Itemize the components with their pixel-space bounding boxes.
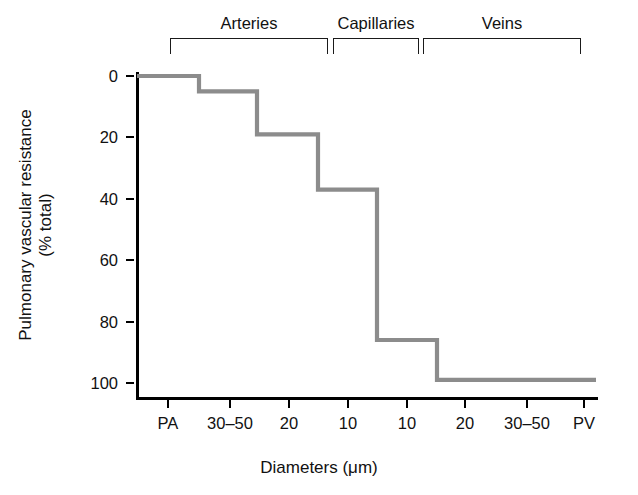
group-bracket-veins [423,38,581,54]
x-tick-label-30-50-a: 30–50 [190,415,270,432]
x-tick-pa [167,400,169,408]
x-tick-30-50-b [526,400,528,408]
group-label-arteries: Arteries [170,14,328,32]
y-tick-40 [126,198,134,200]
y-tick-label-100: 100 [56,375,118,392]
x-axis-line [136,397,598,400]
y-tick-label-20: 20 [56,129,118,146]
group-label-capillaries: Capillaries [318,14,434,32]
y-tick-80 [126,321,134,323]
x-tick-label-10-a: 10 [318,415,378,432]
y-axis-title: Pulmonary vascular resistance (% total) [16,50,56,400]
x-tick-20-b [464,400,466,408]
y-tick-label-80: 80 [56,314,118,331]
y-tick-label-0: 0 [56,68,118,85]
x-tick-label-10-b: 10 [377,415,437,432]
resistance-step-path [137,76,596,380]
group-label-veins: Veins [423,14,581,32]
x-tick-30-50-a [229,400,231,408]
y-tick-label-40: 40 [56,191,118,208]
y-axis-line [136,72,139,399]
y-tick-100 [126,382,134,384]
x-tick-label-pa: PA [138,415,198,432]
x-tick-label-20-a: 20 [259,415,319,432]
x-axis-title: Diameters (μm) [0,458,638,478]
y-axis-title-line1: Pulmonary vascular resistance [16,109,35,340]
group-bracket-capillaries [333,38,419,54]
x-tick-10-b [406,400,408,408]
x-tick-label-pv: PV [554,415,614,432]
x-tick-10-a [347,400,349,408]
chart-figure: Arteries Capillaries Veins 0 20 40 60 80… [0,0,638,495]
group-bracket-arteries [170,38,328,54]
y-axis-title-line2: (% total) [36,50,56,400]
y-tick-60 [126,259,134,261]
x-tick-pv [583,400,585,408]
x-tick-20-a [288,400,290,408]
y-tick-20 [126,136,134,138]
x-tick-label-20-b: 20 [435,415,495,432]
y-tick-0 [126,75,134,77]
y-tick-label-60: 60 [56,252,118,269]
